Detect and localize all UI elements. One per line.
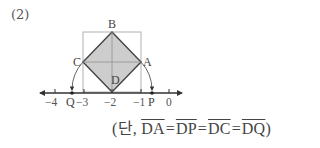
label-b: B — [108, 17, 116, 31]
label-d: D — [111, 73, 120, 87]
tick-label-0: 0 — [166, 96, 172, 108]
equals-sign: = — [166, 120, 175, 137]
label-c: C — [73, 55, 81, 69]
label-p: P — [148, 95, 155, 109]
caption-prefix: (단, — [112, 120, 141, 137]
tick-label-neg3: −3 — [76, 96, 88, 108]
caption-suffix: ) — [265, 120, 271, 137]
segment-dp: DP — [176, 120, 197, 137]
tick-label-neg4: −4 — [45, 96, 57, 108]
equals-sign: = — [198, 120, 207, 137]
equals-sign: = — [232, 120, 241, 137]
segment-dq: DQ — [242, 120, 266, 137]
segment-da: DA — [141, 120, 165, 137]
label-q: Q — [66, 95, 75, 109]
tick-label-neg1: −1 — [133, 96, 145, 108]
label-a: A — [143, 55, 152, 69]
condition-caption: (단, DA=DP=DC=DQ) — [112, 115, 271, 139]
tick-label-neg2: −2 — [104, 96, 116, 108]
segment-dc: DC — [208, 120, 231, 137]
